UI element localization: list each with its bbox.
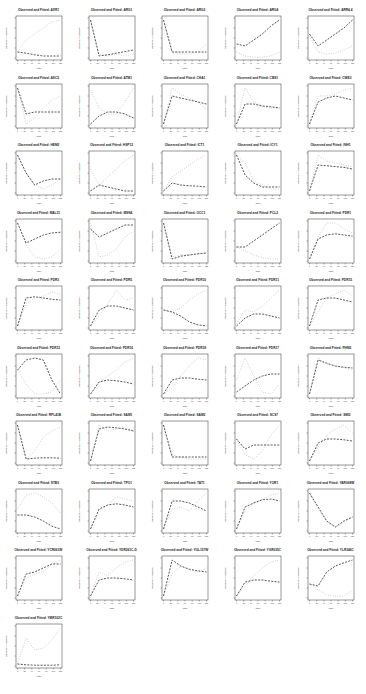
observed-series [164,358,207,394]
svg-text:40: 40 [31,197,34,199]
observed-series [237,493,280,529]
observed-series [310,493,353,527]
svg-text:20: 20 [315,602,318,604]
svg-text:0: 0 [236,130,238,132]
svg-text:60: 60 [184,467,187,469]
svg-text:40: 40 [104,602,107,604]
svg-text:20: 20 [23,670,26,672]
svg-text:0: 0 [90,467,92,469]
svg-text:0: 0 [163,62,165,64]
svg-text:120: 120 [351,130,355,132]
fitted-series [18,155,61,185]
svg-text:20: 20 [242,197,245,199]
svg-text:20: 20 [96,265,99,267]
svg-text:60: 60 [184,197,187,199]
observed-series [164,88,207,124]
chart-panel: Observed and Fitted: PDR11Relative Abund… [221,278,294,344]
svg-text:40: 40 [177,197,180,199]
svg-text:60: 60 [111,62,114,64]
svg-text:100: 100 [198,62,202,64]
svg-text:20: 20 [315,467,318,469]
svg-text:0: 0 [17,197,19,199]
svg-text:40: 40 [104,130,107,132]
svg-text:40: 40 [31,265,34,267]
observed-series [237,52,280,57]
svg-text:80: 80 [264,400,267,402]
observed-series [91,155,134,185]
observed-series [310,223,353,259]
chart-panel: Observed and Fitted: MAL31Relative Abund… [2,211,75,277]
svg-text:80: 80 [118,265,121,267]
svg-text:80: 80 [45,332,48,334]
fitted-series [91,578,134,596]
svg-text:80: 80 [118,602,121,604]
plot-area: 020406080100120 [75,278,148,344]
svg-text:80: 80 [118,197,121,199]
svg-text:20: 20 [315,400,318,402]
svg-text:80: 80 [264,197,267,199]
svg-text:80: 80 [264,467,267,469]
svg-text:100: 100 [344,400,348,402]
svg-text:0: 0 [90,400,92,402]
svg-text:80: 80 [118,62,121,64]
svg-text:40: 40 [323,130,326,132]
fitted-series [18,564,61,596]
svg-text:20: 20 [96,602,99,604]
svg-text:40: 40 [104,197,107,199]
plot-area: 020406080100120 [148,76,221,142]
svg-text:100: 100 [125,197,129,199]
svg-text:120: 120 [132,265,136,267]
svg-text:60: 60 [184,602,187,604]
svg-text:120: 120 [205,602,209,604]
svg-text:20: 20 [242,265,245,267]
svg-text:120: 120 [59,467,63,469]
chart-panel: Observed and Fitted: PDR15Relative Abund… [294,278,366,344]
svg-text:20: 20 [169,602,172,604]
svg-text:100: 100 [271,602,275,604]
chart-panel: Observed and Fitted: YMR102CRelative Abu… [2,616,75,682]
svg-text:60: 60 [111,332,114,334]
svg-text:0: 0 [90,197,92,199]
observed-series [18,292,61,326]
svg-text:20: 20 [169,130,172,132]
chart-panel: Observed and Fitted: HSP12Relative Abund… [75,143,148,209]
svg-text:100: 100 [271,130,275,132]
observed-series [310,88,353,124]
fitted-series [91,380,134,394]
plot-area: 020406080100120 [75,346,148,412]
chart-panel: Observed and Fitted: TAT1Relative Abunda… [148,481,221,547]
svg-text:40: 40 [177,400,180,402]
plot-area: 020406080100120 [148,548,221,614]
svg-text:80: 80 [45,467,48,469]
plot-area: 020406080100120 [221,211,294,277]
svg-text:0: 0 [309,602,311,604]
plot-area: 020406080100120 [294,278,366,344]
svg-text:60: 60 [257,535,260,537]
svg-text:120: 120 [351,602,355,604]
svg-text:100: 100 [198,265,202,267]
fitted-series [18,297,61,326]
svg-text:100: 100 [344,535,348,537]
svg-text:100: 100 [52,670,56,672]
svg-text:100: 100 [52,602,56,604]
svg-text:0: 0 [309,130,311,132]
svg-text:100: 100 [52,400,56,402]
svg-text:80: 80 [337,467,340,469]
svg-text:100: 100 [198,130,202,132]
svg-text:20: 20 [242,467,245,469]
observed-series [237,358,280,394]
chart-panel: Observed and Fitted: ASC5Relative Abunda… [2,76,75,142]
chart-panel: Observed and Fitted: YGR035CRelative Abu… [221,548,294,614]
svg-text:120: 120 [59,197,63,199]
plot-area: 020406080100120 [148,8,221,74]
observed-series [18,20,61,52]
svg-text:60: 60 [184,130,187,132]
chart-panel: Observed and Fitted: SCS7Relative Abunda… [221,413,294,479]
fitted-series [164,183,207,191]
plot-area: 020406080100120 [2,616,75,682]
plot-area: 020406080100120 [75,211,148,277]
plot-area: 020406080100120 [2,76,75,142]
svg-text:60: 60 [111,400,114,402]
svg-text:120: 120 [351,197,355,199]
svg-text:80: 80 [118,467,121,469]
